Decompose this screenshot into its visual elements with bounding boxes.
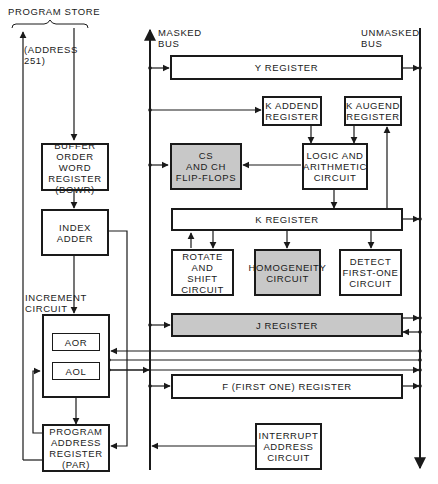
- cs-ch-flip-flops-block: CS AND CH FLIP-FLOPS: [170, 143, 242, 190]
- increment-circuit-block: [42, 314, 110, 398]
- homogeneity-circuit-block: HOMOGENEITY CIRCUIT: [254, 249, 321, 296]
- y-register-block: Y REGISTER: [170, 55, 403, 80]
- aol-block: AOL: [52, 362, 100, 380]
- k-augend-register-block: K AUGEND REGISTER: [344, 96, 402, 126]
- k-addend-register-block: K ADDEND REGISTER: [262, 96, 322, 126]
- interrupt-address-circuit-block: INTERRUPT ADDRESS CIRCUIT: [255, 423, 322, 470]
- f-first-one-register-block: F (FIRST ONE) REGISTER: [171, 374, 403, 399]
- rotate-shift-circuit-block: ROTATE AND SHIFT CIRCUIT: [171, 249, 234, 296]
- index-adder-block: INDEX ADDER: [41, 209, 109, 256]
- detect-first-one-circuit-block: DETECT FIRST-ONE CIRCUIT: [339, 249, 402, 296]
- address-251-label: (ADDRESS 251): [24, 44, 78, 66]
- bowr-block: BUFFER ORDER WORD REGISTER (BOWR): [41, 143, 109, 191]
- j-register-block: J REGISTER: [171, 313, 403, 337]
- unmasked-bus-label: UNMASKED BUS: [361, 27, 420, 49]
- increment-circuit-label: INCREMENT CIRCUIT: [25, 292, 87, 314]
- masked-bus-label: MASKED BUS: [158, 27, 202, 49]
- program-store-label: PROGRAM STORE: [8, 6, 100, 17]
- par-block: PROGRAM ADDRESS REGISTER (PAR): [42, 424, 110, 472]
- k-register-block: K REGISTER: [171, 208, 403, 231]
- aor-block: AOR: [52, 333, 100, 351]
- logic-arithmetic-circuit-block: LOGIC AND ARITHMETIC CIRCUIT: [302, 143, 368, 190]
